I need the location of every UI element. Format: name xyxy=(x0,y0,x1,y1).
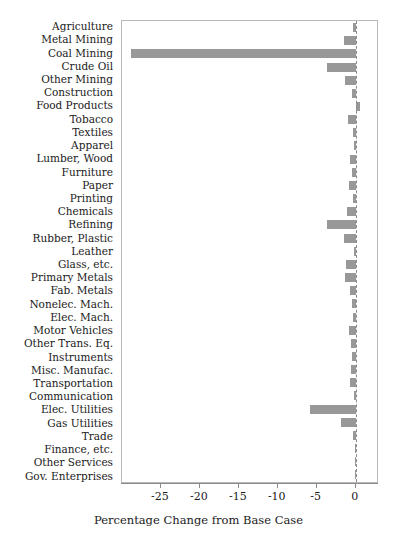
bar-row xyxy=(122,168,377,177)
category-label: Trade xyxy=(0,431,117,442)
x-axis-tick-label: 0 xyxy=(351,490,358,503)
bar-row xyxy=(122,326,377,335)
x-axis-tick xyxy=(277,483,278,488)
category-label: Construction xyxy=(0,87,117,98)
bar-row xyxy=(122,194,377,203)
bar-row xyxy=(122,313,377,322)
category-label: Glass, etc. xyxy=(0,259,117,270)
bar-row xyxy=(122,431,377,440)
category-label: Gov. Enterprises xyxy=(0,471,117,482)
bar-row xyxy=(122,391,377,400)
plot-area xyxy=(121,20,378,483)
bar xyxy=(327,220,356,229)
category-label: Transportation xyxy=(0,378,117,389)
bar-row xyxy=(122,418,377,427)
category-label: Leather xyxy=(0,246,117,257)
bar xyxy=(345,76,356,85)
category-label-column: AgricultureMetal MiningCoal MiningCrude … xyxy=(0,20,117,483)
bar-rows-container xyxy=(122,21,377,482)
bar-row xyxy=(122,76,377,85)
bar xyxy=(310,405,355,414)
bar-row xyxy=(122,444,377,453)
category-label: Nonelec. Mach. xyxy=(0,299,117,310)
bar-row xyxy=(122,36,377,45)
bar-row xyxy=(122,365,377,374)
bar-row xyxy=(122,23,377,32)
bar-row xyxy=(122,247,377,256)
bar-row xyxy=(122,155,377,164)
category-label: Coal Mining xyxy=(0,48,117,59)
category-label: Lumber, Wood xyxy=(0,153,117,164)
zero-reference-line xyxy=(356,21,358,482)
bar-row xyxy=(122,286,377,295)
bar-row xyxy=(122,234,377,243)
bar-row xyxy=(122,207,377,216)
category-label: Metal Mining xyxy=(0,34,117,45)
bar-row xyxy=(122,220,377,229)
bar xyxy=(341,418,356,427)
x-axis-tick-label: -5 xyxy=(310,490,321,503)
category-label: Other Mining xyxy=(0,74,117,85)
category-label: Elec. Mach. xyxy=(0,312,117,323)
x-axis-tick xyxy=(199,483,200,488)
bar-row xyxy=(122,299,377,308)
bar xyxy=(344,234,356,243)
category-label: Apparel xyxy=(0,140,117,151)
bar-row xyxy=(122,115,377,124)
category-label: Tobacco xyxy=(0,114,117,125)
bar xyxy=(131,49,355,58)
x-axis-tick-label: -10 xyxy=(268,490,286,503)
x-axis-tick xyxy=(238,483,239,488)
bar-row xyxy=(122,260,377,269)
category-label: Primary Metals xyxy=(0,272,117,283)
category-label: Furniture xyxy=(0,167,117,178)
bar-row xyxy=(122,457,377,466)
bar xyxy=(345,273,356,282)
category-label: Misc. Manufac. xyxy=(0,365,117,376)
bar-row xyxy=(122,63,377,72)
bar-row xyxy=(122,405,377,414)
x-axis-tick-label: -25 xyxy=(151,490,169,503)
x-axis-tick xyxy=(316,483,317,488)
bar-row xyxy=(122,378,377,387)
bar-row xyxy=(122,89,377,98)
category-label: Other Services xyxy=(0,457,117,468)
category-label: Fab. Metals xyxy=(0,285,117,296)
category-label: Elec. Utilities xyxy=(0,404,117,415)
category-label: Communication xyxy=(0,391,117,402)
bar-row xyxy=(122,273,377,282)
category-label: Agriculture xyxy=(0,21,117,32)
bar xyxy=(348,115,356,124)
category-label: Crude Oil xyxy=(0,61,117,72)
category-label: Rubber, Plastic xyxy=(0,233,117,244)
category-label: Other Trans. Eq. xyxy=(0,338,117,349)
bar xyxy=(347,207,356,216)
x-axis-tick xyxy=(355,483,356,488)
bar-row xyxy=(122,339,377,348)
category-label: Textiles xyxy=(0,127,117,138)
bar xyxy=(344,36,356,45)
x-axis: -25-20-15-10-50 xyxy=(121,483,378,484)
category-label: Motor Vehicles xyxy=(0,325,117,336)
category-label: Paper xyxy=(0,180,117,191)
category-label: Printing xyxy=(0,193,117,204)
x-axis-tick-label: -15 xyxy=(229,490,247,503)
category-label: Gas Utilities xyxy=(0,418,117,429)
bar-row xyxy=(122,470,377,479)
bar-row xyxy=(122,49,377,58)
bar-row xyxy=(122,128,377,137)
category-label: Refining xyxy=(0,219,117,230)
bar-row xyxy=(122,352,377,361)
bar-row xyxy=(122,102,377,111)
bar-row xyxy=(122,141,377,150)
bar xyxy=(346,260,355,269)
category-label: Finance, etc. xyxy=(0,444,117,455)
bar-row xyxy=(122,181,377,190)
bar xyxy=(327,63,356,72)
x-axis-tick-label: -20 xyxy=(190,490,208,503)
category-label: Instruments xyxy=(0,352,117,363)
category-label: Food Products xyxy=(0,100,117,111)
category-label: Chemicals xyxy=(0,206,117,217)
bar-chart-figure: AgricultureMetal MiningCoal MiningCrude … xyxy=(0,0,397,540)
x-axis-label: Percentage Change from Base Case xyxy=(0,513,397,527)
